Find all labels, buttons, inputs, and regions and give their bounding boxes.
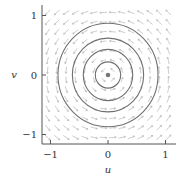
field-arrow-icon: [73, 116, 79, 120]
field-arrow-icon: [54, 125, 59, 130]
field-arrow-icon: [100, 137, 107, 139]
field-arrow-icon: [55, 57, 57, 64]
field-arrow-icon: [147, 10, 153, 14]
field-arrow-icon: [47, 86, 49, 93]
field-arrow-icon: [167, 67, 169, 74]
field-arrow-icon: [120, 59, 124, 63]
field-arrow-icon: [82, 107, 87, 111]
field-arrow-icon: [137, 136, 143, 140]
field-arrow-icon: [102, 78, 106, 82]
field-arrow-icon: [55, 48, 58, 55]
field-arrow-icon: [65, 86, 68, 92]
field-arrow-icon: [91, 31, 97, 34]
field-arrow-icon: [101, 60, 106, 62]
field-arrow-icon: [72, 11, 78, 15]
field-arrow-icon: [55, 96, 58, 103]
field-arrow-icon: [47, 67, 49, 74]
field-arrow-icon: [109, 117, 116, 119]
field-arrow-icon: [129, 107, 134, 111]
field-arrow-icon: [139, 48, 143, 53]
field-arrow-icon: [72, 126, 78, 130]
field-arrow-icon: [111, 78, 115, 82]
field-arrow-icon: [158, 86, 160, 93]
field-arrow-icon: [46, 48, 49, 55]
field-arrow-icon: [55, 38, 59, 44]
field-arrow-icon: [128, 20, 135, 23]
field-arrow-icon: [91, 137, 98, 139]
field-arrow-icon: [74, 48, 78, 53]
field-arrow-icon: [128, 11, 135, 14]
field-arrow-icon: [119, 126, 126, 128]
field-arrow-icon: [56, 86, 58, 93]
equilibrium-point: [106, 73, 111, 78]
field-arrow-icon: [140, 77, 142, 83]
field-arrow-icon: [129, 97, 133, 101]
field-arrow-icon: [139, 67, 141, 73]
field-arrow-icon: [45, 125, 50, 130]
field-arrow-icon: [138, 116, 144, 120]
field-arrow-icon: [157, 48, 160, 55]
field-arrow-icon: [157, 29, 162, 35]
field-arrow-icon: [138, 106, 143, 111]
field-arrow-icon: [45, 19, 50, 24]
field-arrow-icon: [128, 136, 135, 139]
phase-portrait-figure: −101−101 u v: [0, 0, 183, 181]
field-arrow-icon: [100, 41, 106, 43]
field-arrow-icon: [167, 105, 171, 111]
field-arrow-icon: [157, 115, 162, 121]
field-arrow-icon: [93, 68, 95, 73]
field-arrow-icon: [149, 77, 151, 84]
field-arrow-icon: [109, 21, 116, 23]
field-arrow-icon: [111, 68, 115, 72]
field-arrow-icon: [166, 10, 171, 15]
field-arrow-icon: [73, 30, 79, 34]
field-arrow-icon: [54, 20, 59, 25]
field-arrow-icon: [91, 21, 98, 23]
field-arrow-icon: [109, 31, 116, 33]
field-arrow-icon: [100, 12, 107, 14]
field-arrow-icon: [47, 76, 49, 83]
field-arrow-icon: [147, 126, 153, 131]
field-arrow-icon: [158, 76, 160, 83]
field-arrow-icon: [147, 135, 153, 139]
field-arrow-icon: [166, 135, 171, 140]
field-arrow-icon: [168, 86, 170, 93]
field-arrow-icon: [46, 29, 50, 35]
field-arrow-icon: [82, 21, 89, 24]
field-arrow-icon: [73, 39, 78, 44]
field-arrow-icon: [100, 31, 107, 33]
field-arrow-icon: [91, 12, 98, 14]
field-arrow-icon: [168, 76, 170, 83]
field-arrow-icon: [166, 29, 170, 35]
field-arrow-icon: [128, 126, 135, 129]
field-arrow-icon: [63, 126, 69, 131]
x-tick-label: 1: [162, 149, 168, 160]
field-arrow-icon: [46, 105, 50, 111]
field-arrow-icon: [157, 106, 161, 112]
field-arrow-icon: [166, 19, 171, 24]
field-arrow-icon: [55, 115, 60, 121]
field-arrow-icon: [65, 77, 67, 84]
field-arrow-icon: [91, 127, 98, 129]
field-arrow-icon: [149, 86, 152, 92]
field-arrow-icon: [46, 96, 49, 103]
field-arrow-icon: [138, 39, 143, 44]
field-arrow-icon: [109, 11, 116, 13]
field-arrow-icon: [167, 38, 171, 44]
field-arrow-icon: [100, 127, 107, 129]
field-arrow-icon: [119, 117, 125, 120]
field-arrow-icon: [65, 67, 67, 74]
x-tick-label: 0: [105, 149, 111, 160]
field-arrow-icon: [120, 87, 124, 91]
field-arrow-icon: [110, 88, 115, 90]
field-arrow-icon: [100, 108, 106, 110]
field-arrow-icon: [147, 20, 153, 25]
field-arrow-icon: [147, 116, 152, 121]
field-arrow-icon: [64, 116, 69, 121]
field-arrow-icon: [167, 96, 170, 103]
y-axis-label: v: [11, 69, 17, 80]
field-arrow-icon: [157, 38, 161, 44]
field-arrow-icon: [166, 125, 171, 130]
field-arrow-icon: [73, 106, 78, 111]
field-arrow-icon: [63, 10, 69, 14]
